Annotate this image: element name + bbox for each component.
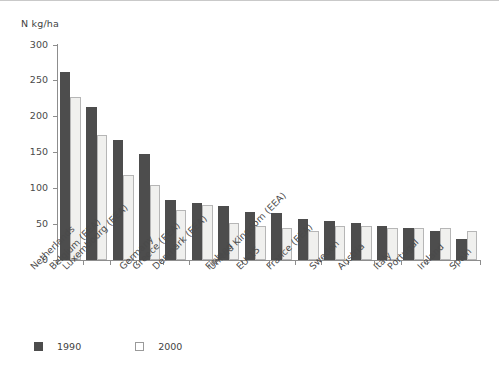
bar-group [324, 45, 345, 260]
y-axis-tick-label: 250 [30, 74, 48, 85]
legend-swatch-icon-2000 [135, 342, 144, 351]
y-axis-tick-label: 50 [36, 218, 48, 229]
x-axis-tick-mark [110, 261, 111, 265]
legend-label-2000: 2000 [158, 341, 182, 352]
bar-group [218, 45, 239, 260]
plot-area [57, 45, 480, 260]
bar-group [351, 45, 372, 260]
legend-swatch-icon-1990 [34, 342, 43, 351]
y-axis-unit-label: N kg/ha [21, 18, 59, 29]
y-axis-tick-label: 150 [30, 146, 48, 157]
x-axis-tick-mark [189, 261, 190, 265]
bar-group [456, 45, 477, 260]
bar-group [113, 45, 134, 260]
bar-group [139, 45, 160, 260]
chart-legend: 1990 2000 [34, 341, 236, 352]
bar-group [377, 45, 398, 260]
x-axis-tick-mark [295, 261, 296, 265]
nitrogen-balance-bar-chart: N kg/ha 050100150200250300 NetherlandsBe… [0, 0, 499, 372]
x-axis-tick-mark [83, 261, 84, 265]
bar-group [403, 45, 424, 260]
legend-item-2000: 2000 [135, 341, 182, 352]
legend-label-1990: 1990 [57, 341, 81, 352]
x-axis-tick-mark [480, 261, 481, 265]
y-axis-tick-label: 200 [30, 110, 48, 121]
bar-group [271, 45, 292, 260]
legend-item-1990: 1990 [34, 341, 81, 352]
y-axis-tick-label: 100 [30, 182, 48, 193]
y-axis-tick-label: 300 [30, 39, 48, 50]
bar-2000 [202, 205, 213, 260]
bar-1990 [113, 140, 124, 260]
bar-group [430, 45, 451, 260]
